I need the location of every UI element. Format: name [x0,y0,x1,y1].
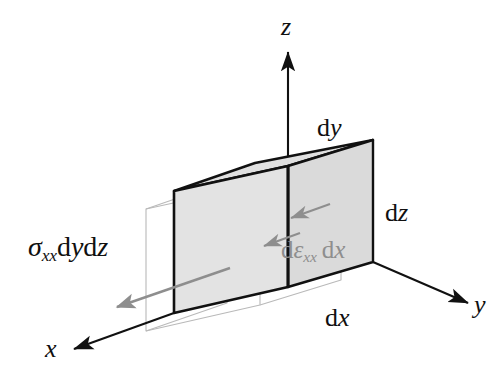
cube-front-face [174,166,288,313]
dimension-label-dx: dx [325,305,350,331]
axis-label-x: x [45,336,57,362]
dimension-label-dz: dz [385,200,408,226]
stress-element-figure: z y x dy dz dx σxxdydz dεxxdx [0,0,503,382]
x-axis-line [74,313,174,349]
axis-label-z: z [281,14,291,40]
strain-elongation-label: dεxxdx [281,237,345,265]
y-axis-line [373,262,468,303]
axis-label-y: y [474,292,486,318]
diagram-canvas [0,0,503,382]
dimension-label-dy: dy [317,115,342,141]
stress-force-label: σxxdydz [28,233,108,264]
